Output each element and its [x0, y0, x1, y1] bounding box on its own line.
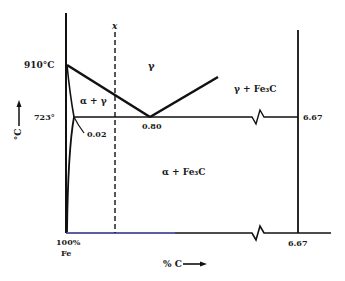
label-723: 723° — [34, 113, 55, 121]
region-gamma: γ — [148, 61, 155, 71]
y-axis-label: °C — [14, 129, 23, 141]
label-0-02: 0.02 — [87, 130, 106, 138]
label-910: 910°C — [24, 61, 54, 70]
region-gamma-fe3c: γ + Fe₃C — [234, 85, 276, 94]
label-origin-100: 100% — [56, 238, 80, 246]
alpha-solvus-curve — [67, 117, 74, 232]
base-line-right — [175, 226, 331, 240]
label-0-80: 0.80 — [142, 122, 161, 130]
x-axis-label: % C — [163, 260, 182, 269]
region-alpha-fe3c: α + Fe₃C — [162, 168, 205, 177]
label-x-line: x — [112, 22, 117, 31]
eutectoid-line — [74, 110, 298, 124]
label-6-67-top: 6.67 — [303, 113, 322, 121]
alpha-gamma-boundary — [67, 65, 74, 117]
x-axis-arrow-icon — [200, 262, 207, 267]
acm-line — [150, 77, 218, 117]
y-axis-arrow-icon — [17, 100, 22, 107]
label-origin-fe: Fe — [61, 249, 71, 257]
a3-line — [67, 65, 150, 117]
region-alpha-gamma: α + γ — [80, 97, 107, 106]
phase-diagram: x 910°C 723° γ α + γ γ + Fe₃C α + Fe₃C 0… — [0, 0, 345, 281]
label-6-67-bottom: 6.67 — [288, 239, 307, 247]
leader-0-02 — [74, 117, 84, 133]
